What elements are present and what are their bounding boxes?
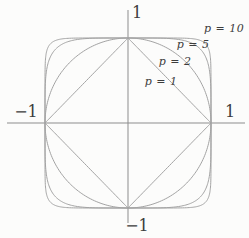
curve-label-p5: p = 5 xyxy=(177,39,210,50)
x-axis-pos-label: 1 xyxy=(225,104,235,120)
lp-norm-unit-circles-figure: 1 −1 1 −1 p = 1 p = 2 p = 5 p = 10 xyxy=(0,0,249,238)
y-axis-neg-label: −1 xyxy=(125,218,149,234)
y-axis-pos-label: 1 xyxy=(132,5,142,21)
curve-label-p1: p = 1 xyxy=(145,76,178,87)
curve-label-p2: p = 2 xyxy=(159,56,192,67)
x-axis-neg-label: −1 xyxy=(14,104,38,120)
curve-label-p10: p = 10 xyxy=(204,23,244,34)
